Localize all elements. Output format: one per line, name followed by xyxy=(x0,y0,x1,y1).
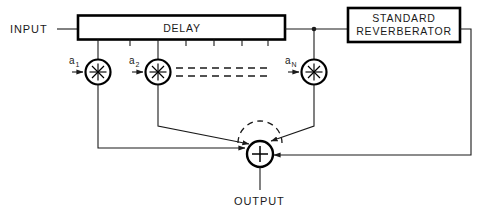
multiplier-n-asterisk-icon xyxy=(306,64,323,81)
reverb-feedback-wire xyxy=(274,29,471,155)
coefficient-2-subscript: 2 xyxy=(136,61,140,68)
coefficient-1-subscript: 1 xyxy=(76,61,80,68)
coefficient-n-subscript: N xyxy=(292,61,297,68)
signal-flow-diagram: INPUT DELAY STANDARD REVERBERATOR xyxy=(0,0,480,218)
input-label: INPUT xyxy=(10,23,48,35)
schematic-canvas: INPUT DELAY STANDARD REVERBERATOR xyxy=(0,0,480,218)
output-label: OUTPUT xyxy=(234,195,285,207)
multiplier-2-asterisk-icon xyxy=(150,64,167,81)
coefficient-2-label: a xyxy=(129,55,135,66)
tap2-output-wire xyxy=(158,85,249,145)
reverberator-label-line1: STANDARD xyxy=(372,12,435,24)
coefficient-1-label: a xyxy=(69,55,75,66)
multiplier-1-asterisk-icon xyxy=(90,64,107,81)
tapN-output-wire xyxy=(271,85,314,142)
reverberator-label-line2: REVERBERATOR xyxy=(356,25,452,37)
delay-block-label: DELAY xyxy=(163,22,201,34)
coefficient-n-label: a xyxy=(285,55,291,66)
